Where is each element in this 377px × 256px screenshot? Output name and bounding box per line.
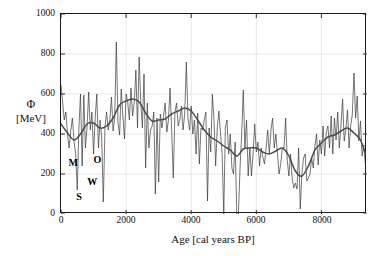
y-tick-label-0: 0	[20, 209, 55, 219]
y-tick-label-1000: 1000	[20, 9, 55, 19]
x-tick-label-4000: 4000	[182, 216, 201, 226]
x-tick-label-8000: 8000	[313, 216, 332, 226]
annotation-spoerer-minimum: S	[76, 192, 82, 202]
y-tick-label-400: 400	[20, 129, 55, 139]
x-tick-label-6000: 6000	[247, 216, 266, 226]
y-tick-label-200: 200	[20, 169, 55, 179]
x-tick-label-0: 0	[59, 216, 64, 226]
y-axis-title-unit: [MeV]	[6, 112, 56, 125]
plot-canvas	[61, 14, 367, 214]
series-solar-modulation-potential	[61, 42, 365, 214]
chart-figure: 1000 800 600 400 200 0 Φ [MeV] 0 2000 40…	[0, 0, 377, 256]
plot-area: M S W O	[60, 13, 366, 213]
y-axis-title-symbol: Φ	[6, 98, 56, 112]
y-tick-label-800: 800	[20, 49, 55, 59]
x-axis-title: Age [cal years BP]	[60, 233, 366, 245]
annotation-wolf-minimum: W	[87, 177, 97, 187]
x-tick-label-2000: 2000	[117, 216, 136, 226]
y-axis-title: Φ [MeV]	[6, 98, 56, 124]
annotation-oort-minimum: O	[93, 155, 101, 165]
annotation-maunder-minimum: M	[68, 158, 77, 168]
